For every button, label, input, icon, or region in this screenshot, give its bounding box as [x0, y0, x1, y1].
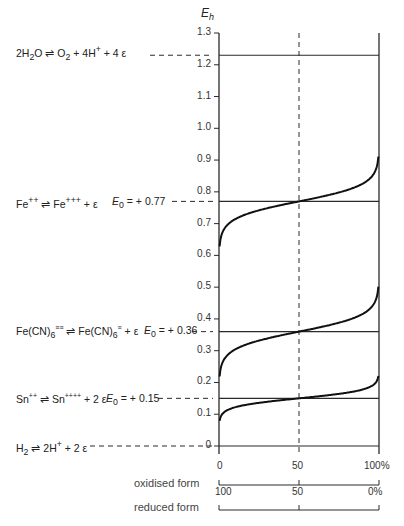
- ox-tick-0: 0: [217, 460, 223, 471]
- ox-tick-50: 50: [292, 460, 303, 471]
- h2-equation-label: H2 ⇌ 2H+ + 2 ε: [16, 439, 87, 457]
- y-tick-label: 1.3: [187, 26, 211, 37]
- y-tick-label: 0: [187, 439, 211, 450]
- y-tick-label: 0.6: [187, 248, 211, 259]
- sn-equation-label: Sn++ ⇌ Sn++++ + 2 ε: [16, 392, 106, 405]
- y-tick-label: 0.2: [187, 375, 211, 386]
- red-tick-100: 100: [215, 486, 232, 497]
- y-tick-label: 0.3: [187, 344, 211, 355]
- y-tick-label: 0.8: [187, 185, 211, 196]
- y-tick-label: 0.7: [187, 217, 211, 228]
- fe-equation-label: Fe++ ⇌ Fe+++ + ε: [16, 195, 98, 210]
- red-tick-50: 50: [292, 486, 303, 497]
- y-tick-label: 0.1: [187, 407, 211, 418]
- y-tick-label: 0.9: [187, 153, 211, 164]
- y-tick-label: 1.0: [187, 121, 211, 132]
- fecn-e0-label: E0 = + 0.36: [144, 324, 197, 339]
- ox-tick-100: 100%: [364, 460, 390, 471]
- y-tick-label: 0.5: [187, 280, 211, 291]
- reduced-form-label: reduced form: [134, 501, 199, 513]
- fe-e0-label: E0 = + 0.77: [112, 195, 165, 210]
- y-tick-label: 1.1: [187, 90, 211, 101]
- y-tick-label: 1.2: [187, 58, 211, 69]
- oxidised-form-label: oxidised form: [134, 477, 199, 489]
- sn-e0-label: E0 = + 0.15: [106, 392, 159, 407]
- y-tick-label: 0.4: [187, 312, 211, 323]
- y-axis-label: Eh: [201, 6, 214, 22]
- red-tick-0: 0%: [368, 486, 382, 497]
- water-equation-label: 2H2O ⇌ O2 + 4H+ + 4 ε: [16, 44, 126, 62]
- fecn-equation-label: Fe(CN)6≡≡ ⇌ Fe(CN)6≡ + ε: [16, 324, 138, 340]
